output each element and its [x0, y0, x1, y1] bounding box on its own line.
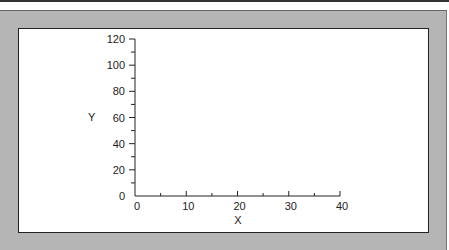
x-tick-label: 0: [134, 200, 140, 212]
y-tick-label: 40: [113, 138, 125, 150]
y-tick-label: 0: [119, 190, 125, 202]
x-axis-title: X: [234, 214, 242, 226]
y-tick-label: 80: [113, 85, 125, 97]
y-tick-label: 120: [107, 33, 125, 45]
y-tick-label: 100: [107, 59, 125, 71]
x-tick-label: 30: [285, 200, 297, 212]
y-axis-title: Y: [88, 111, 96, 123]
y-tick-label: 20: [113, 164, 125, 176]
y-tick-label: 60: [113, 112, 125, 124]
x-tick-label: 20: [233, 200, 245, 212]
x-tick-label: 40: [336, 200, 348, 212]
x-tick-label: 10: [182, 200, 194, 212]
